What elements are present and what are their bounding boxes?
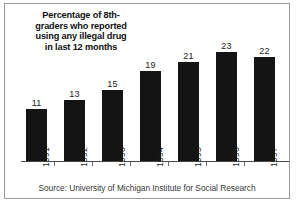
- x-axis-label-text: 1996: [231, 147, 241, 167]
- bar-value-label: 23: [211, 41, 242, 51]
- axis-tick: [206, 162, 207, 166]
- bar-slot: 22: [249, 10, 281, 162]
- source-note: Source: University of Michigan Institute…: [5, 183, 289, 193]
- axis-tick: [54, 162, 55, 166]
- chart-figure: Percentage of 8th- graders who reported …: [4, 3, 290, 199]
- bar-value-label: 19: [135, 60, 166, 70]
- bar-slot: 21: [173, 10, 205, 162]
- bar-value-label: 15: [97, 79, 128, 89]
- bar-slot: 11: [21, 10, 53, 162]
- x-axis-label-text: 1997: [269, 147, 279, 167]
- bar-slot: 13: [59, 10, 91, 162]
- axis-tick: [92, 162, 93, 166]
- bar-value-label: 22: [249, 46, 280, 56]
- x-axis-label-text: 1993: [117, 147, 127, 167]
- axis-tick: [168, 162, 169, 166]
- bar-value-label: 13: [59, 89, 90, 99]
- axis-tick: [244, 162, 245, 166]
- bar-value-label: 11: [21, 98, 52, 108]
- x-axis-label-text: 1994: [155, 147, 165, 167]
- bar-slot: 19: [135, 10, 167, 162]
- bar: [216, 52, 237, 162]
- bar-slot: 23: [211, 10, 243, 162]
- x-axis-label-text: 1991: [41, 147, 51, 167]
- plot-area: 11 13 15 19 21 23 22: [21, 10, 285, 162]
- bar-value-label: 21: [173, 51, 204, 61]
- axis-tick: [130, 162, 131, 166]
- bar-slot: 15: [97, 10, 129, 162]
- x-axis-label-text: 1992: [79, 147, 89, 167]
- x-axis-label-text: 1995: [193, 147, 203, 167]
